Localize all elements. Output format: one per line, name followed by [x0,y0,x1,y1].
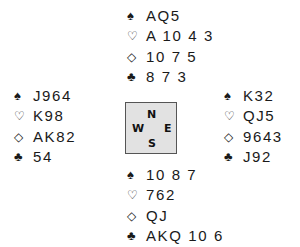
south-hearts-cards: 762 [146,185,176,205]
north-clubs-row: ♣ 8 7 3 [127,67,214,87]
club-icon: ♣ [127,226,146,246]
east-hearts-row: ♡ QJ5 [224,106,283,126]
south-hearts-row: ♡ 762 [127,185,224,205]
north-hand: ♠ AQ5 ♡ A 10 4 3 ◇ 10 7 5 ♣ 8 7 3 [127,6,214,87]
south-spades-row: ♠ 10 8 7 [127,165,224,185]
east-clubs-row: ♣ J92 [224,147,283,167]
heart-icon: ♡ [14,106,33,126]
east-hand: ♠ K32 ♡ QJ5 ◇ 9643 ♣ J92 [224,86,283,167]
compass-box: N W E S [125,102,177,154]
diamond-icon: ◇ [224,127,243,147]
club-icon: ♣ [224,147,243,167]
south-clubs-cards: AKQ 10 6 [146,226,224,246]
south-diamonds-row: ◇ QJ [127,206,224,226]
west-spades-row: ♠ J964 [14,86,76,106]
north-spades-row: ♠ AQ5 [127,6,214,26]
east-spades-cards: K32 [243,86,275,106]
west-hand: ♠ J964 ♡ K98 ◇ AK82 ♣ 54 [14,86,76,167]
south-diamonds-cards: QJ [146,206,168,226]
west-diamonds-cards: AK82 [33,127,76,147]
compass-north-label: N [147,108,156,121]
west-clubs-cards: 54 [33,147,53,167]
west-spades-cards: J964 [33,86,72,106]
west-clubs-row: ♣ 54 [14,147,76,167]
spade-icon: ♠ [14,86,33,106]
south-clubs-row: ♣ AKQ 10 6 [127,226,224,246]
north-spades-cards: AQ5 [146,6,181,26]
diamond-icon: ◇ [127,206,146,226]
diamond-icon: ◇ [14,127,33,147]
west-diamonds-row: ◇ AK82 [14,127,76,147]
compass-west-label: W [132,122,144,135]
east-spades-row: ♠ K32 [224,86,283,106]
compass-east-label: E [164,122,172,135]
south-hand: ♠ 10 8 7 ♡ 762 ◇ QJ ♣ AKQ 10 6 [127,165,224,246]
north-hearts-cards: A 10 4 3 [146,26,214,46]
north-hearts-row: ♡ A 10 4 3 [127,26,214,46]
compass-south-label: S [148,137,156,150]
east-clubs-cards: J92 [243,147,272,167]
north-diamonds-row: ◇ 10 7 5 [127,47,214,67]
east-hearts-cards: QJ5 [243,106,275,126]
diamond-icon: ◇ [127,47,146,67]
heart-icon: ♡ [127,26,146,46]
west-hearts-cards: K98 [33,106,65,126]
west-hearts-row: ♡ K98 [14,106,76,126]
north-diamonds-cards: 10 7 5 [146,47,197,67]
north-clubs-cards: 8 7 3 [146,67,187,87]
heart-icon: ♡ [127,185,146,205]
spade-icon: ♠ [224,86,243,106]
club-icon: ♣ [127,67,146,87]
spade-icon: ♠ [127,6,146,26]
east-diamonds-cards: 9643 [243,127,283,147]
south-spades-cards: 10 8 7 [146,165,197,185]
club-icon: ♣ [14,147,33,167]
east-diamonds-row: ◇ 9643 [224,127,283,147]
spade-icon: ♠ [127,165,146,185]
heart-icon: ♡ [224,106,243,126]
